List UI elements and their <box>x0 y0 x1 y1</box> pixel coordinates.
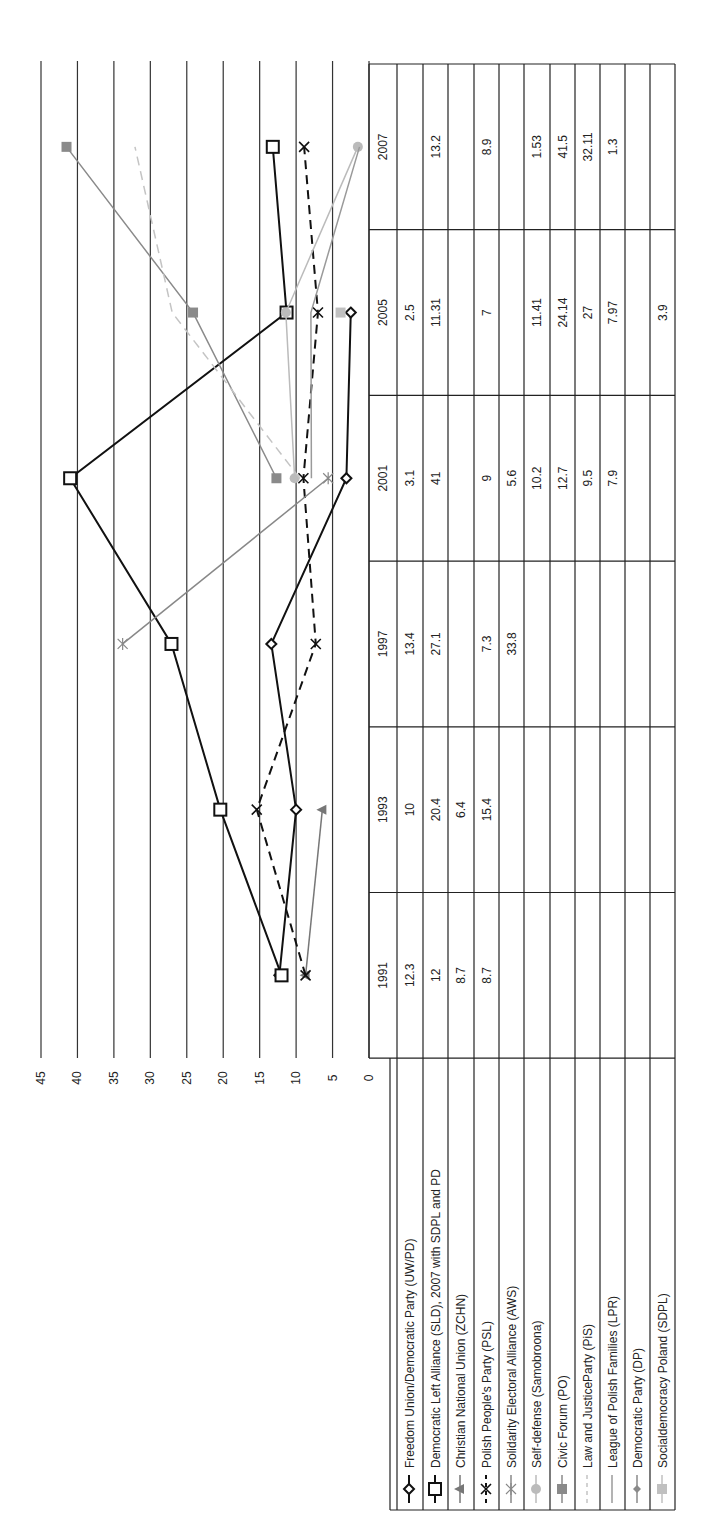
table-cell: 3.9 <box>656 304 670 321</box>
legend-label: Civic Forum (PO) <box>556 1375 570 1468</box>
year-header: 1991 <box>376 962 390 989</box>
table-cell: 27.1 <box>429 632 443 656</box>
square-marker <box>188 308 198 318</box>
square-marker <box>62 142 72 152</box>
square-marker <box>165 638 177 650</box>
y-tick-label: 35 <box>107 1071 121 1085</box>
table-cell: 6.4 <box>454 801 468 818</box>
table-cell: 3.1 <box>403 470 417 487</box>
table-cell: 41.5 <box>556 135 570 159</box>
series-line <box>64 141 292 982</box>
table-cell: 33.8 <box>505 632 519 656</box>
legend-key <box>531 1475 541 1503</box>
series-line <box>252 142 323 981</box>
series-line <box>135 147 300 478</box>
legend-key <box>481 1475 491 1503</box>
plot-series <box>62 141 363 982</box>
table-cell: 12 <box>429 968 443 982</box>
star-marker <box>323 472 333 484</box>
y-axis-tick-labels: 051015202530354045 <box>34 1071 376 1085</box>
triangle-marker <box>454 1484 464 1494</box>
legend-label: Democratic Left Alliance (SLD), 2007 wit… <box>429 1169 443 1468</box>
y-tick-label: 45 <box>34 1071 48 1085</box>
series-path <box>123 478 329 644</box>
table-cell: 12.7 <box>556 466 570 490</box>
y-tick-label: 30 <box>143 1071 157 1085</box>
table-cell: 12.3 <box>403 963 417 987</box>
y-tick-label: 0 <box>362 1074 376 1081</box>
square-marker <box>64 472 76 484</box>
y-tick-label: 5 <box>326 1074 340 1081</box>
diamond-marker <box>404 1484 414 1494</box>
legend-key <box>657 1475 667 1503</box>
series-path <box>70 147 286 976</box>
y-tick-label: 40 <box>70 1071 84 1085</box>
diamond-marker <box>346 308 356 318</box>
table-cell: 20.4 <box>429 798 443 822</box>
table-cell: 1.53 <box>530 135 544 159</box>
legend-label: Law and JusticeParty (PiS) <box>581 1324 595 1468</box>
year-header: 1997 <box>376 630 390 657</box>
gridlines <box>41 61 369 1058</box>
square-marker <box>267 141 279 153</box>
circle-marker <box>281 308 291 318</box>
table-cell: 5.6 <box>505 470 519 487</box>
legend-label: Solidarity Electoral Alliance (AWS) <box>505 1286 519 1468</box>
series-line <box>300 805 327 981</box>
star-marker <box>118 638 128 650</box>
year-header: 2001 <box>376 465 390 492</box>
square-marker <box>336 308 346 318</box>
diamond-marker <box>633 1485 641 1493</box>
square-marker <box>214 804 226 816</box>
table-cell: 41 <box>429 471 443 485</box>
legend-key <box>633 1475 641 1503</box>
legend-label: Self-defense (Samobroona) <box>530 1321 544 1468</box>
circle-marker <box>290 473 300 483</box>
table-cell: 13.4 <box>403 632 417 656</box>
table-cell: 7.3 <box>480 635 494 652</box>
table-cell: 2.5 <box>403 304 417 321</box>
table-cell: 7 <box>480 309 494 316</box>
y-tick-label: 10 <box>289 1071 303 1085</box>
series-path <box>135 147 300 478</box>
square-marker <box>429 1483 441 1495</box>
table-cell: 27 <box>581 306 595 320</box>
year-header: 2005 <box>376 299 390 326</box>
y-tick-label: 25 <box>180 1071 194 1085</box>
year-header: 2007 <box>376 133 390 160</box>
legend-key <box>404 1475 414 1503</box>
circle-marker <box>531 1484 541 1494</box>
table-cell: 9.5 <box>581 470 595 487</box>
legend-key <box>506 1475 516 1503</box>
table-cell: 7.9 <box>606 470 620 487</box>
table-cell: 15.4 <box>480 798 494 822</box>
legend-label: Christian National Union (ZCHN) <box>454 1294 468 1468</box>
square-marker <box>557 1484 567 1494</box>
square-marker <box>271 473 281 483</box>
legend-key <box>557 1475 567 1503</box>
diamond-marker <box>291 805 301 815</box>
series-line <box>336 308 346 318</box>
table-cell: 13.2 <box>429 135 443 159</box>
table-cell: 8.7 <box>480 967 494 984</box>
year-header: 1993 <box>376 796 390 823</box>
legend-label: League of Polish Families (LPR) <box>606 1296 620 1468</box>
legend-label: Democratic Party (DP) <box>631 1348 645 1468</box>
series-line <box>62 142 282 483</box>
square-marker <box>657 1484 667 1494</box>
table-cell: 11.31 <box>429 298 443 327</box>
table-cell: 8.9 <box>480 138 494 155</box>
rotated-line-chart-with-data-table: 051015202530354045 199119931997200120052… <box>0 0 713 1535</box>
table-cell: 8.7 <box>454 967 468 984</box>
legend-key <box>429 1475 441 1503</box>
y-tick-label: 20 <box>216 1071 230 1085</box>
star-marker <box>506 1483 516 1495</box>
square-marker <box>276 969 288 981</box>
diamond-marker <box>266 639 276 649</box>
table-cell: 9 <box>480 475 494 482</box>
table-cell: 32.11 <box>581 132 595 161</box>
legend-label: Socialdemocracy Poland (SDPL) <box>656 1293 670 1468</box>
table-cell: 1.3 <box>606 138 620 155</box>
table-cell: 11.41 <box>530 298 544 327</box>
series-path <box>67 147 277 478</box>
